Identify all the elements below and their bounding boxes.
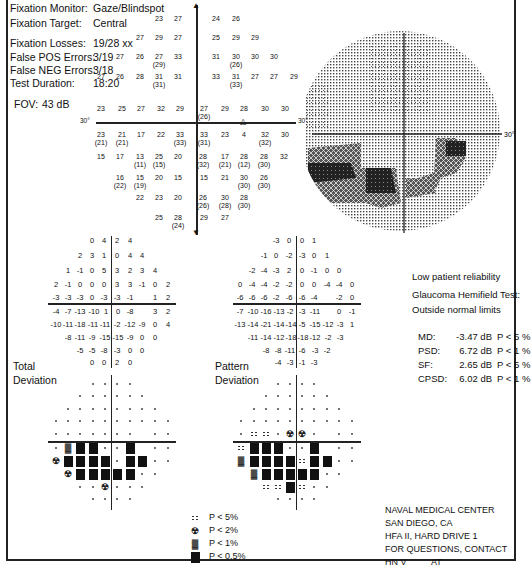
p-less-5-dots-icon — [191, 515, 199, 521]
threshold-value: 25(15) — [149, 153, 169, 169]
probability-cell — [73, 467, 87, 481]
total-dev-horizontal-axis — [48, 303, 176, 305]
footer-line-5: HN V AT — [385, 556, 442, 569]
p-less-2-icon: ☢ — [101, 482, 109, 492]
probability-cell — [320, 480, 334, 494]
probability-cell — [73, 414, 87, 428]
normal-dot-icon — [67, 408, 69, 410]
normal-dot-icon — [154, 447, 156, 449]
threshold-value: 29 — [245, 34, 265, 42]
index-value: -3.47 dB — [440, 330, 492, 343]
deviation-value: 0 — [134, 346, 150, 355]
threshold-value: 29 — [194, 214, 214, 222]
p-less-2-icon: ☢ — [298, 429, 306, 439]
normal-dot-icon — [55, 447, 57, 449]
normal-dot-icon — [301, 447, 303, 449]
deviation-value: -2 — [319, 346, 335, 355]
threshold-value: 27 — [131, 105, 151, 113]
normal-dot-icon — [338, 408, 340, 410]
normal-dot-icon — [301, 408, 303, 410]
normal-dot-icon — [116, 395, 118, 397]
index-name: PSD: — [418, 344, 440, 357]
normal-dot-icon — [104, 383, 106, 385]
legend-label: P < 2% — [209, 525, 238, 535]
threshold-value: 28(12) — [234, 153, 254, 169]
threshold-value: 25 — [206, 34, 226, 42]
threshold-value-main: 15 — [194, 174, 214, 182]
threshold-value-repeat: (30) — [234, 182, 254, 190]
fixation-losses-label: Fixation Losses: — [10, 37, 86, 50]
threshold-value-main: 20 — [168, 153, 188, 161]
index-probability: P < 1 % — [497, 372, 530, 385]
false-pos-label: False POS Errors: — [10, 51, 95, 64]
normal-dot-icon — [79, 408, 81, 410]
threshold-value-repeat: (21) — [215, 161, 235, 169]
probability-cell — [73, 427, 87, 441]
threshold-value-main: 26 — [110, 73, 130, 81]
p-less-0-5-square-icon — [76, 443, 85, 454]
threshold-value: 29 — [170, 105, 190, 113]
threshold-value: 20 — [168, 153, 188, 161]
normal-dot-icon — [277, 408, 279, 410]
normal-dot-icon — [326, 408, 328, 410]
threshold-value: 28(30) — [254, 153, 274, 169]
threshold-value-repeat: (32) — [193, 161, 213, 169]
normal-dot-icon — [129, 395, 131, 397]
footer-line-4: FOR QUESTIONS, CONTACT — [385, 543, 507, 556]
probability-cell — [73, 480, 87, 494]
threshold-value: 29 — [226, 34, 246, 42]
threshold-value: 31 — [168, 73, 188, 81]
threshold-value: 30(26) — [226, 53, 246, 69]
p-less-0-5-square-icon — [89, 469, 98, 480]
threshold-value-main: 30 — [245, 53, 265, 61]
p-less-0-5-square-icon — [310, 469, 319, 480]
normal-dot-icon — [289, 420, 291, 422]
threshold-value-main: 22 — [130, 194, 150, 202]
probability-cell — [345, 441, 359, 455]
threshold-value-main: 15 — [130, 174, 150, 182]
normal-dot-icon — [154, 460, 156, 462]
threshold-value: 29 — [284, 73, 304, 81]
index-probability: P < 5 % — [497, 358, 530, 371]
normal-dot-icon — [351, 447, 353, 449]
probability-cell — [234, 441, 248, 455]
normal-dot-icon — [167, 420, 169, 422]
probability-cell — [161, 441, 175, 455]
p-less-0-5-square-icon — [138, 456, 147, 467]
threshold-value: 15(19) — [130, 174, 150, 190]
normal-dot-icon — [116, 498, 118, 500]
p-less-0-5-square-icon — [323, 456, 332, 467]
deviation-value: -3 — [306, 358, 322, 367]
legend-label: P < 1% — [209, 538, 238, 548]
threshold-value: 17 — [110, 153, 130, 161]
p-less-0-5-square-icon — [310, 443, 319, 454]
threshold-value-main: 29 — [215, 105, 235, 113]
normal-dot-icon — [67, 420, 69, 422]
threshold-value-repeat: (32) — [255, 139, 275, 147]
normal-dot-icon — [326, 473, 328, 475]
deviation-value: 4 — [147, 266, 163, 275]
probability-cell — [135, 389, 149, 403]
threshold-value-main: 25 — [149, 153, 169, 161]
p-less-0-5-square-icon — [286, 456, 295, 467]
threshold-value-repeat: (12) — [234, 161, 254, 169]
normal-dot-icon — [338, 433, 340, 435]
threshold-value: 26 — [130, 53, 150, 61]
pattern-deviation-label-2: Deviation — [215, 374, 259, 387]
threshold-value-main: 27 — [194, 105, 214, 113]
probability-cell — [148, 441, 162, 455]
fixation-losses-value: 19/28 xx — [93, 37, 133, 50]
normal-dot-icon — [55, 420, 57, 422]
normal-dot-icon — [277, 420, 279, 422]
threshold-value: 32(32) — [255, 131, 275, 147]
threshold-value: 30 — [245, 53, 265, 61]
threshold-value-repeat: (26) — [226, 61, 246, 69]
threshold-value-repeat: (11) — [130, 161, 150, 169]
footer-line-2: SAN DIEGO, CA — [385, 517, 453, 530]
threshold-value: 23 — [215, 131, 235, 139]
deviation-value: -8 — [122, 307, 138, 316]
threshold-value-main: 21 — [215, 174, 235, 182]
threshold-value: 13(11) — [130, 153, 150, 169]
p-less-2-icon: ☢ — [286, 429, 294, 439]
p-less-0-5-square-icon — [101, 456, 110, 467]
